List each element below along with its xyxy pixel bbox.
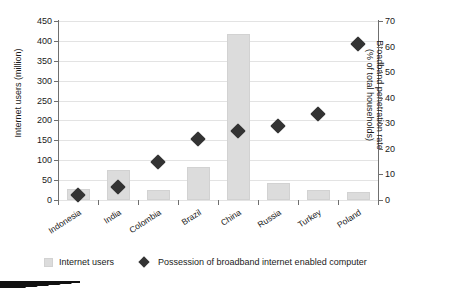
left-axis-tick xyxy=(54,81,59,82)
x-axis-tick xyxy=(338,200,339,205)
left-axis-tick xyxy=(54,61,59,62)
legend-label-broadband-possession: Possession of broadband internet enabled… xyxy=(158,257,367,267)
gridline xyxy=(58,140,378,141)
right-axis-tick xyxy=(378,98,383,99)
left-axis-tick-label: 350 xyxy=(37,56,52,65)
diamond-marker-icon xyxy=(138,256,149,267)
right-axis-title-line2: (% of total households) xyxy=(365,20,375,170)
legend-item-broadband-possession: Possession of broadband internet enabled… xyxy=(138,257,367,267)
left-axis-tick-label: 50 xyxy=(42,176,52,185)
gridline xyxy=(58,21,378,22)
left-axis-title: Internet users (million) xyxy=(13,18,23,168)
right-axis-tick-labels: 010203040506070 xyxy=(385,0,411,221)
left-axis-tick xyxy=(54,140,59,141)
right-axis-tick-label: 60 xyxy=(385,42,395,51)
right-axis-tick-label: 0 xyxy=(385,196,390,205)
scan-artifact xyxy=(0,281,80,288)
left-axis-tick-label: 100 xyxy=(37,156,52,165)
gridline xyxy=(58,160,378,161)
x-axis-tick xyxy=(378,200,379,205)
right-axis-tick xyxy=(378,174,383,175)
chart-legend: Internet users Possession of broadband i… xyxy=(44,255,414,269)
legend-item-internet-users: Internet users xyxy=(44,257,114,267)
x-axis-tick xyxy=(298,200,299,205)
left-axis-tick-label: 400 xyxy=(37,36,52,45)
marker-poland xyxy=(350,36,366,52)
bar-colombia xyxy=(147,190,170,200)
marker-brazil xyxy=(190,131,206,147)
gridline xyxy=(58,61,378,62)
bar-china xyxy=(227,34,250,200)
right-axis-tick xyxy=(378,21,383,22)
marker-colombia xyxy=(150,154,166,170)
left-axis-tick-label: 0 xyxy=(47,196,52,205)
right-axis-tick-label: 10 xyxy=(385,170,395,179)
left-axis-tick xyxy=(54,101,59,102)
right-axis-title-line1: Broadband penetration rate xyxy=(375,40,385,150)
bar-poland xyxy=(347,192,370,200)
left-axis-tick xyxy=(54,21,59,22)
chart-figure: 050100150200250300350400450 010203040506… xyxy=(0,0,449,292)
bar-russia xyxy=(267,183,290,200)
right-axis-tick-label: 70 xyxy=(385,17,395,26)
x-axis-tick xyxy=(178,200,179,205)
right-axis-tick xyxy=(378,72,383,73)
right-axis-title: Broadband penetration rate (% of total h… xyxy=(365,20,385,170)
left-axis-tick-label: 200 xyxy=(37,116,52,125)
x-axis-tick xyxy=(98,200,99,205)
right-axis-tick-label: 30 xyxy=(385,119,395,128)
x-axis-tick xyxy=(218,200,219,205)
bar-turkey xyxy=(307,190,330,200)
right-axis-tick xyxy=(378,149,383,150)
right-axis-tick xyxy=(378,47,383,48)
left-axis-tick-label: 250 xyxy=(37,96,52,105)
left-axis-tick xyxy=(54,41,59,42)
legend-label-internet-users: Internet users xyxy=(59,257,114,267)
left-axis-tick xyxy=(54,180,59,181)
bar-swatch-icon xyxy=(44,258,53,267)
x-axis-tick xyxy=(58,200,59,205)
right-axis-tick-label: 20 xyxy=(385,144,395,153)
gridline xyxy=(58,41,378,42)
x-axis-tick xyxy=(258,200,259,205)
plot-area xyxy=(58,21,378,200)
left-axis-tick-label: 150 xyxy=(37,136,52,145)
right-axis-tick-label: 40 xyxy=(385,93,395,102)
x-axis-tick xyxy=(138,200,139,205)
left-axis-tick-label: 300 xyxy=(37,76,52,85)
gridline xyxy=(58,120,378,121)
right-axis-tick-label: 50 xyxy=(385,68,395,77)
gridline xyxy=(58,101,378,102)
left-axis-tick-label: 450 xyxy=(37,17,52,26)
gridline xyxy=(58,81,378,82)
right-axis-tick xyxy=(378,123,383,124)
left-axis-tick xyxy=(54,160,59,161)
left-axis-tick xyxy=(54,120,59,121)
left-axis-tick-labels: 050100150200250300350400450 xyxy=(0,0,52,221)
bar-brazil xyxy=(187,167,210,200)
